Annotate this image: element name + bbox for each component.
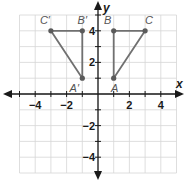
- triangle-ABC: ABC: [104, 14, 153, 94]
- vertex-label: B′: [78, 14, 88, 26]
- y-tick-label: −2: [82, 120, 95, 132]
- x-tick-label: −2: [60, 99, 73, 111]
- triangles: ABCA′B′C′: [40, 14, 153, 94]
- vertex-point: [111, 76, 116, 81]
- x-tick-label: −4: [29, 99, 42, 111]
- vertex-label: C: [145, 14, 153, 26]
- vertex-label: A′: [69, 82, 80, 94]
- y-axis-up-arrow-icon: [94, 1, 102, 10]
- x-axis-label: x: [175, 77, 184, 91]
- vertex-point: [143, 28, 148, 33]
- y-tick-label: −4: [82, 151, 95, 163]
- y-tick-label: 2: [89, 56, 95, 68]
- coordinate-plane: −4−22442−2−4 ABCA′B′C′ x y: [0, 0, 186, 181]
- vertex-label: A: [110, 82, 118, 94]
- vertex-point: [48, 28, 53, 33]
- x-tick-label: 2: [126, 99, 132, 111]
- x-tick-label: 4: [158, 99, 165, 111]
- vertex-point: [111, 28, 116, 33]
- y-axis-down-arrow-icon: [94, 171, 102, 180]
- y-axis-label: y: [102, 1, 111, 15]
- vertex-label: B: [104, 14, 111, 26]
- vertex-point: [80, 76, 85, 81]
- x-axis-left-arrow-icon: [3, 90, 12, 98]
- vertex-label: C′: [40, 14, 51, 26]
- triangle-A'B'C': A′B′C′: [40, 14, 88, 94]
- vertex-point: [80, 28, 85, 33]
- y-tick-label: 4: [89, 25, 96, 37]
